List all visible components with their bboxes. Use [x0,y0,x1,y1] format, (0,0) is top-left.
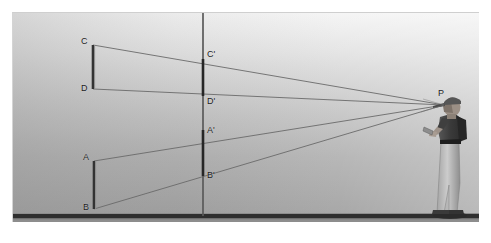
label-C: C [81,37,88,46]
label-C-prime: C' [207,50,215,59]
observer-shoe-back [449,210,464,214]
label-P: P [438,89,444,98]
figure-root: C D A B C' D' A' B' P [0,0,491,243]
diagram-frame: C D A B C' D' A' B' P [12,12,479,222]
ground-line-highlight [13,218,479,219]
observer-shoe-front [432,210,449,214]
label-D-prime: D' [207,97,215,106]
observer-neck [447,114,456,119]
ground-line [13,214,479,218]
label-A: A [83,153,89,162]
label-B: B [83,203,89,212]
label-D: D [81,84,88,93]
label-B-prime: B' [207,171,215,180]
label-A-prime: A' [207,126,215,135]
